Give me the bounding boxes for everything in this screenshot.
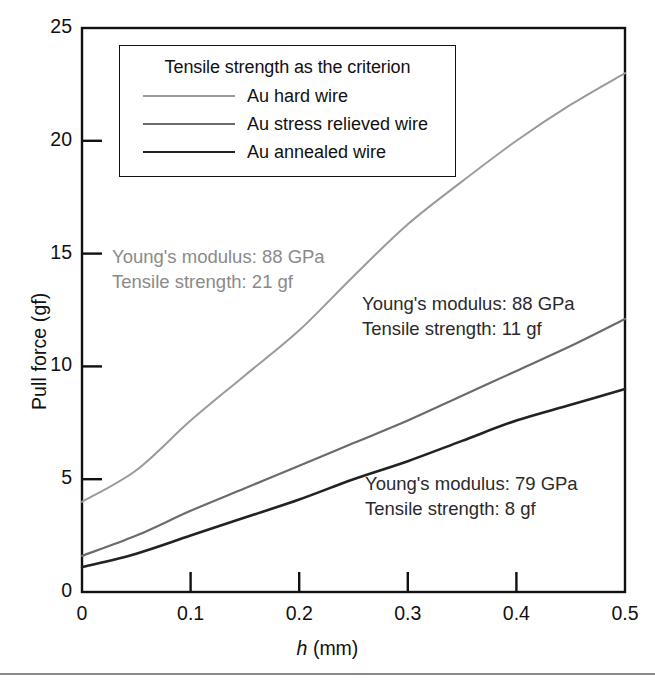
legend-line-swatch [143,95,235,97]
legend-title: Tensile strength as the criterion [120,57,455,78]
x-axis-label: h (mm) [0,637,655,660]
annotation-line-modulus: Young's modulus: 79 GPa [365,472,578,497]
annotation-au-annealed-wire: Young's modulus: 79 GPa Tensile strength… [365,472,578,521]
y-tick-label: 15 [12,241,72,264]
y-tick-label: 0 [12,579,72,602]
y-tick-label: 20 [12,128,72,151]
x-tick-label: 0.5 [590,602,655,625]
x-axis-label-symbol: h [297,637,308,659]
legend-entry-label: Au stress relieved wire [247,114,428,135]
x-tick-label: 0.2 [264,602,334,625]
legend-entry: Au stress relieved wire [120,110,455,138]
annotation-au-hard-wire: Young's modulus: 88 GPa Tensile strength… [112,245,325,294]
y-tick-label: 5 [12,466,72,489]
annotation-line-strength: Tensile strength: 21 gf [112,270,325,295]
tick-marks [82,141,516,592]
x-tick-label: 0.4 [481,602,551,625]
y-tick-label: 25 [12,15,72,38]
y-tick-label: 10 [12,353,72,376]
x-tick-label: 0.1 [156,602,226,625]
legend-box: Tensile strength as the criterion Au har… [119,45,456,177]
legend-entry-label: Au hard wire [247,86,348,107]
annotation-line-modulus: Young's modulus: 88 GPa [112,245,325,270]
annotation-line-modulus: Young's modulus: 88 GPa [362,292,575,317]
x-axis-label-unit: (mm) [307,637,358,659]
page-bottom-rule [0,673,655,675]
x-tick-label: 0 [47,602,117,625]
figure-panel: Pull force (gf) h (mm) 0510152025 00.10.… [0,0,655,681]
legend-line-swatch [143,151,235,153]
annotation-line-strength: Tensile strength: 8 gf [365,497,578,522]
legend-entries: Au hard wireAu stress relieved wireAu an… [120,82,455,166]
legend-entry-label: Au annealed wire [247,142,386,163]
x-tick-label: 0.3 [373,602,443,625]
legend-entry: Au hard wire [120,82,455,110]
legend-entry: Au annealed wire [120,138,455,166]
annotation-au-stress-relieved-wire: Young's modulus: 88 GPa Tensile strength… [362,292,575,341]
annotation-line-strength: Tensile strength: 11 gf [362,317,575,342]
legend-line-swatch [143,123,235,125]
y-axis-label-text: Pull force (gf) [28,293,51,410]
